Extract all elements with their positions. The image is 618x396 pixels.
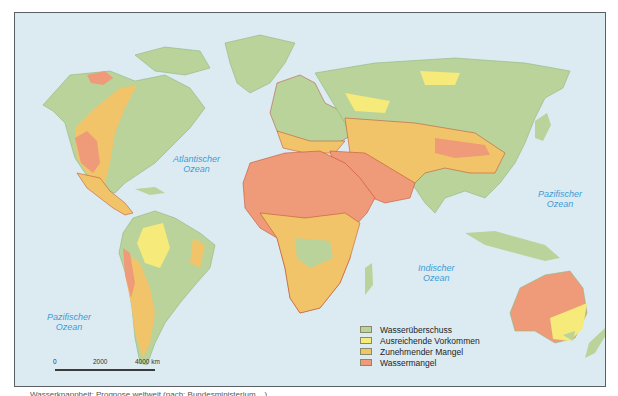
scale-tick-4000: 4000 km: [135, 358, 160, 365]
ocean-label-pacific-west: Pazifischer Ozean: [47, 312, 91, 332]
legend-swatch: [360, 337, 372, 344]
scale-tick-2000: 2000: [93, 358, 107, 365]
legend-swatch: [360, 348, 372, 355]
legend-item-sufficient: Ausreichende Vorkommen: [360, 335, 480, 346]
legend-swatch: [360, 359, 372, 366]
map-frame: Atlantischer Ozean Indischer Ozean Pazif…: [14, 12, 606, 387]
scale-tick-0: 0: [53, 358, 57, 365]
arctic-islands: [135, 47, 210, 75]
siberia-sufficient-1: [420, 71, 460, 85]
legend-item-increasing-shortage: Zunehmender Mangel: [360, 346, 480, 357]
map-legend: Wasserüberschuss Ausreichende Vorkommen …: [360, 324, 480, 368]
ocean-label-atlantic: Atlantischer Ozean: [173, 154, 220, 174]
figure-caption: Wasserknappheit: Prognose weltweit (nach…: [30, 389, 267, 396]
legend-swatch: [360, 326, 372, 333]
scale-bar: 0 2000 4000 km: [55, 358, 165, 378]
scale-line: [55, 369, 155, 371]
ocean-label-indian: Indischer Ozean: [418, 263, 455, 283]
ocean-label-pacific-east: Pazifischer Ozean: [538, 189, 582, 209]
legend-item-surplus: Wasserüberschuss: [360, 324, 480, 335]
world-map: [15, 13, 605, 386]
legend-item-shortage: Wassermangel: [360, 357, 480, 368]
